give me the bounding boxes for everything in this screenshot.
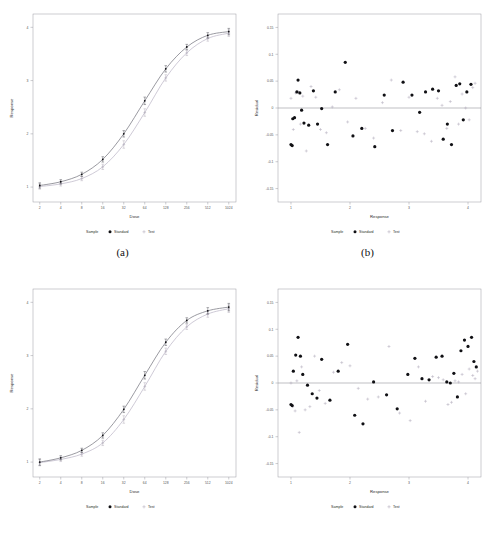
data-point-test bbox=[409, 419, 412, 422]
y-tick-label: -0.15 bbox=[266, 187, 274, 191]
legend-standard-label: Standard bbox=[114, 230, 129, 234]
data-point-test bbox=[298, 431, 301, 434]
x-axis-label: Response bbox=[370, 214, 390, 219]
x-tick-label: 64 bbox=[143, 206, 147, 210]
data-point-test bbox=[300, 365, 303, 368]
y-tick-label: 0 bbox=[272, 106, 274, 110]
x-tick-label: 2 bbox=[39, 481, 41, 485]
panel-c-plot: 24816326412825651210241234DoseResponseSa… bbox=[0, 275, 245, 521]
data-point-test bbox=[408, 96, 411, 99]
dose-response-chart-a: 24816326412825651210241234DoseResponseSa… bbox=[0, 0, 245, 246]
data-point-standard bbox=[312, 89, 315, 92]
data-point-standard bbox=[165, 341, 167, 343]
data-point-standard bbox=[361, 422, 364, 425]
x-tick-label: 1024 bbox=[225, 481, 233, 485]
data-point-test bbox=[354, 97, 357, 100]
y-tick-label: -0.05 bbox=[266, 408, 274, 412]
data-point-test bbox=[471, 374, 474, 377]
data-point-standard bbox=[102, 435, 104, 437]
data-point-test bbox=[332, 371, 335, 374]
data-point-test bbox=[446, 403, 449, 406]
data-point-standard bbox=[458, 82, 461, 85]
data-point-test bbox=[398, 412, 401, 415]
data-point-standard bbox=[455, 84, 458, 87]
data-point-test bbox=[464, 392, 467, 395]
y-tick-label: 0.05 bbox=[267, 354, 274, 358]
data-point-standard bbox=[385, 393, 388, 396]
x-tick-label: 8 bbox=[81, 481, 83, 485]
data-point-standard bbox=[456, 395, 459, 398]
data-point-standard bbox=[186, 320, 188, 322]
y-axis-label: Residual bbox=[254, 100, 259, 116]
data-point-standard bbox=[207, 34, 209, 36]
data-point-test bbox=[449, 100, 452, 103]
data-point-test bbox=[338, 88, 341, 91]
panel-d: 1234-0.15-0.1-0.0500.050.10.15ResponseRe… bbox=[245, 275, 490, 551]
data-point-standard bbox=[406, 373, 409, 376]
data-point-test bbox=[346, 120, 349, 123]
legend-test-label: Test bbox=[393, 505, 400, 509]
data-point-standard bbox=[228, 31, 230, 33]
data-point-standard bbox=[81, 449, 83, 451]
data-point-test bbox=[295, 379, 298, 382]
data-point-standard bbox=[469, 83, 472, 86]
data-point-test bbox=[454, 379, 457, 382]
data-point-standard bbox=[413, 357, 416, 360]
data-point-standard bbox=[353, 414, 356, 417]
data-point-standard bbox=[301, 373, 304, 376]
data-point-standard bbox=[449, 381, 452, 384]
data-point-test bbox=[423, 132, 426, 135]
data-point-standard bbox=[360, 127, 363, 130]
data-point-standard bbox=[472, 360, 475, 363]
data-point-standard bbox=[420, 377, 423, 380]
data-point-test bbox=[313, 355, 316, 358]
y-axis-label: Response bbox=[9, 373, 14, 393]
x-tick-label: 2 bbox=[349, 206, 351, 210]
data-point-standard bbox=[123, 133, 125, 135]
panel-c: 24816326412825651210241234DoseResponseSa… bbox=[0, 275, 245, 551]
x-tick-label: 3 bbox=[408, 206, 410, 210]
data-point-test bbox=[310, 85, 313, 88]
data-point-standard bbox=[383, 94, 386, 97]
x-axis-label: Response bbox=[370, 489, 390, 494]
panel-a: 24816326412825651210241234DoseResponseSa… bbox=[0, 0, 245, 275]
x-tick-label: 1024 bbox=[225, 206, 233, 210]
legend-test-marker bbox=[387, 230, 390, 233]
data-point-standard bbox=[292, 370, 295, 373]
data-point-test bbox=[454, 75, 457, 78]
data-point-standard bbox=[207, 310, 209, 312]
data-point-standard bbox=[320, 358, 323, 361]
residual-chart-b: 1234-0.15-0.1-0.0500.050.10.15ResponseRe… bbox=[245, 0, 490, 246]
data-point-test bbox=[318, 389, 321, 392]
curve-test bbox=[40, 33, 229, 186]
data-point-standard bbox=[442, 138, 445, 141]
data-point-test bbox=[372, 137, 375, 140]
data-point-standard bbox=[344, 61, 347, 64]
y-tick-label: 3 bbox=[27, 79, 29, 83]
data-point-test bbox=[299, 123, 302, 126]
data-point-standard bbox=[326, 143, 329, 146]
data-point-standard bbox=[293, 116, 296, 119]
y-axis-label: Response bbox=[9, 98, 14, 118]
data-point-standard bbox=[465, 90, 468, 93]
data-point-standard bbox=[372, 380, 375, 383]
data-point-standard bbox=[334, 90, 337, 93]
panel-b-caption: (b) bbox=[245, 246, 490, 258]
data-point-standard bbox=[81, 173, 83, 175]
y-tick-label: -0.1 bbox=[268, 435, 274, 439]
data-point-standard bbox=[435, 356, 438, 359]
data-point-test bbox=[437, 376, 440, 379]
data-point-standard bbox=[466, 345, 469, 348]
data-point-standard bbox=[186, 46, 188, 48]
data-point-standard bbox=[302, 121, 305, 124]
data-point-test bbox=[364, 127, 367, 130]
data-point-test bbox=[471, 86, 474, 89]
data-point-standard bbox=[445, 380, 448, 383]
x-tick-label: 128 bbox=[163, 481, 169, 485]
data-point-standard bbox=[228, 306, 230, 308]
data-point-test bbox=[464, 107, 467, 110]
data-point-test bbox=[289, 97, 292, 100]
y-tick-label: 1 bbox=[27, 185, 29, 189]
legend-test-label: Test bbox=[393, 230, 400, 234]
y-tick-label: 4 bbox=[27, 26, 29, 30]
